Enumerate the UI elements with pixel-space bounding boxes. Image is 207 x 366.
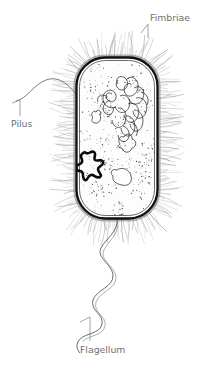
diagram-canvas: Fimbriae Pilus Flagellum xyxy=(0,0,207,366)
bacterial-cell-diagram: Fimbriae Pilus Flagellum xyxy=(0,0,207,366)
pilus-label-text: Pilus xyxy=(11,118,32,129)
flagellum-label-text: Flagellum xyxy=(80,344,125,355)
fimbriae-label-text: Fimbriae xyxy=(150,12,190,23)
